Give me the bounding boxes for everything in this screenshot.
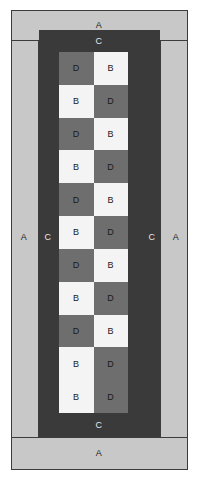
label-region-c-bottom: C	[96, 420, 103, 430]
checkerboard-cell: D	[94, 150, 129, 183]
checkerboard-cell-label: D	[73, 326, 80, 336]
checkerboard-cell-label: D	[73, 129, 80, 139]
checkerboard-cell: D	[59, 183, 94, 216]
checkerboard-cell: B	[94, 118, 129, 151]
checkerboard-cell-label: D	[107, 162, 114, 172]
checkerboard-cell-label: B	[73, 162, 79, 172]
label-region-a-left: A	[21, 232, 27, 242]
checkerboard-cell: B	[94, 315, 129, 348]
checkerboard-cell-label: D	[107, 392, 114, 402]
checkerboard-cell-label: B	[73, 96, 79, 106]
checkerboard-cell: B	[59, 282, 94, 315]
label-region-c-right: C	[149, 232, 156, 242]
checkerboard-cell-label: B	[108, 129, 114, 139]
checkerboard-cell: D	[59, 315, 94, 348]
checkerboard-cell-label: D	[73, 260, 80, 270]
checkerboard-cell-label: B	[73, 227, 79, 237]
checkerboard-cell-label: D	[107, 96, 114, 106]
checkerboard-cell: B	[59, 85, 94, 118]
checkerboard-cell-label: D	[73, 195, 80, 205]
checkerboard-cell: B	[59, 347, 94, 380]
checkerboard-cell: B	[94, 52, 129, 85]
label-region-a-bottom: A	[96, 448, 102, 458]
label-region-a-top: A	[96, 20, 102, 30]
checkerboard-cell: B	[94, 249, 129, 282]
checkerboard-cell: D	[59, 52, 94, 85]
checkerboard-cell-label: B	[108, 195, 114, 205]
checkerboard-cell: B	[59, 380, 94, 413]
checkerboard-cell-label: D	[73, 63, 80, 73]
checkerboard-grid: DBBDDBBDDBBDDBBDDBBDBD	[59, 52, 128, 413]
checkerboard-cell: D	[94, 85, 129, 118]
checkerboard-cell: D	[94, 380, 129, 413]
checkerboard-cell-label: B	[108, 260, 114, 270]
checkerboard-cell-label: B	[73, 293, 79, 303]
checkerboard-cell-label: B	[108, 326, 114, 336]
label-region-c-left: C	[45, 232, 52, 242]
checkerboard-cell: B	[94, 183, 129, 216]
checkerboard-cell-label: D	[107, 293, 114, 303]
checkerboard-cell-label: D	[107, 359, 114, 369]
label-region-c-top: C	[96, 36, 103, 46]
checkerboard-cell: B	[59, 216, 94, 249]
checkerboard-cell: D	[59, 249, 94, 282]
checkerboard-cell: D	[94, 216, 129, 249]
checkerboard-cell-label: B	[108, 63, 114, 73]
checkerboard-cell: D	[94, 347, 129, 380]
checkerboard-cell: D	[59, 118, 94, 151]
diagram-canvas: DBBDDBBDDBBDDBBDDBBDBD A A C C A A C C	[0, 0, 200, 483]
checkerboard-cell: B	[59, 150, 94, 183]
label-region-a-right: A	[173, 232, 179, 242]
checkerboard-cell: D	[94, 282, 129, 315]
checkerboard-cell-label: B	[73, 392, 79, 402]
checkerboard-cell-label: D	[107, 227, 114, 237]
checkerboard-cell-label: B	[73, 359, 79, 369]
